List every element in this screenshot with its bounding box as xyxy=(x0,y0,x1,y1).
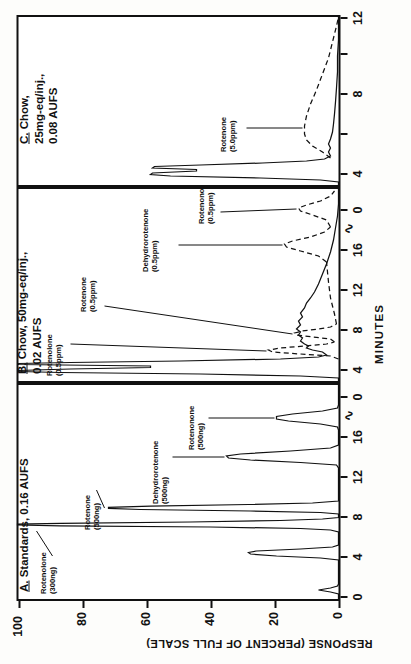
x-tickmark xyxy=(340,476,347,478)
panel-c-title-line2: 25mg-eq/inj., xyxy=(32,74,44,144)
figure-page: RESPONSE (PERCENT OF FULL SCALE) 0 20 40… xyxy=(0,0,411,664)
x-tick-b-0: 0 xyxy=(350,199,364,221)
panel-c-title-line1: Chow, xyxy=(17,95,29,129)
leader-rotenone-c xyxy=(0,0,411,664)
x-tickmark xyxy=(340,209,347,211)
x-tickmark xyxy=(340,396,347,398)
x-tickmark xyxy=(340,329,347,331)
x-tickmark xyxy=(340,556,347,558)
x-axis-title: MINUTES xyxy=(372,304,384,364)
x-tick-c-8: 8 xyxy=(350,83,364,105)
axis-break-a: ∿ xyxy=(340,411,355,421)
x-tick-a-16: 16 xyxy=(350,426,364,448)
axis-break-b: ∿ xyxy=(340,224,355,234)
x-tickmark xyxy=(340,596,347,598)
rotated-figure-canvas: RESPONSE (PERCENT OF FULL SCALE) 0 20 40… xyxy=(0,0,411,664)
x-tick-b-16: 16 xyxy=(350,239,364,261)
x-tickmark xyxy=(340,133,347,135)
x-tickmark xyxy=(340,436,347,438)
x-tick-b-12: 12 xyxy=(350,279,364,301)
x-tickmark xyxy=(340,516,347,518)
x-tickmark xyxy=(340,369,347,371)
x-tick-c-12: 12 xyxy=(350,7,364,29)
x-tickmark xyxy=(340,173,347,175)
panel-c-letter: C. xyxy=(17,133,29,145)
x-tickmark xyxy=(340,289,347,291)
x-tick-b-4: 4 xyxy=(350,359,364,381)
x-tickmark xyxy=(340,249,347,251)
x-tick-b-8: 8 xyxy=(350,319,364,341)
chromatogram-figure: RESPONSE (PERCENT OF FULL SCALE) 0 20 40… xyxy=(0,0,411,664)
x-tickmark xyxy=(340,53,347,55)
x-tick-a-12: 12 xyxy=(350,466,364,488)
panel-c-title-line3: 0.08 AUFS xyxy=(46,88,58,144)
x-tickmark xyxy=(340,93,347,95)
panel-c-title: C. Chow, 25mg-eq/inj., 0.08 AUFS xyxy=(16,74,60,144)
x-tickmark xyxy=(340,17,347,19)
x-tick-a-0: 0 xyxy=(350,586,364,608)
x-tick-a-8: 8 xyxy=(350,506,364,528)
x-tick-a-4: 4 xyxy=(350,546,364,568)
x-tick-c-4: 4 xyxy=(350,163,364,185)
x-tick-a-0b: 0 xyxy=(350,386,364,408)
